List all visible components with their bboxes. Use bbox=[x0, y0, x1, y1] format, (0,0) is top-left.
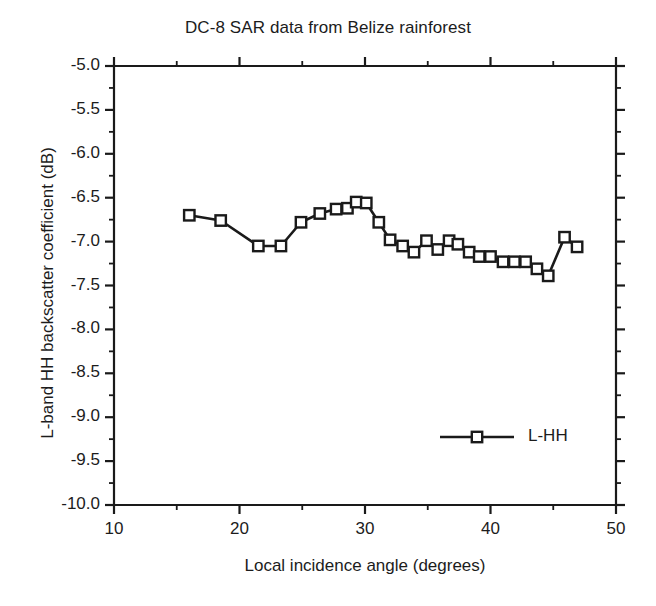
legend-entry-label: L-HH bbox=[528, 426, 568, 446]
data-point-marker bbox=[276, 241, 286, 251]
data-point-marker bbox=[361, 198, 371, 208]
y-tick-label: -7.0 bbox=[30, 231, 100, 251]
x-tick-label: 20 bbox=[215, 519, 265, 539]
chart-figure: DC-8 SAR data from Belize rainforest L-b… bbox=[0, 0, 656, 606]
data-point-marker bbox=[409, 247, 419, 257]
x-tick-label: 40 bbox=[466, 519, 516, 539]
y-tick-label: -10.0 bbox=[30, 494, 100, 514]
data-point-marker bbox=[315, 208, 325, 218]
y-tick-label: -9.0 bbox=[30, 406, 100, 426]
y-tick-label: -5.5 bbox=[30, 99, 100, 119]
x-tick-label: 30 bbox=[340, 519, 390, 539]
legend bbox=[440, 432, 514, 442]
y-tick-label: -8.0 bbox=[30, 318, 100, 338]
data-point-marker bbox=[374, 217, 384, 227]
plot-area bbox=[0, 0, 656, 606]
data-point-marker bbox=[498, 257, 508, 267]
y-tick-label: -8.5 bbox=[30, 362, 100, 382]
y-tick-label: -5.0 bbox=[30, 55, 100, 75]
y-tick-label: -6.5 bbox=[30, 187, 100, 207]
x-tick-label: 10 bbox=[89, 519, 139, 539]
y-tick-label: -6.0 bbox=[30, 143, 100, 163]
data-point-marker bbox=[385, 235, 395, 245]
series-l-hh bbox=[184, 197, 582, 281]
data-point-marker bbox=[474, 251, 484, 261]
chart-title: DC-8 SAR data from Belize rainforest bbox=[0, 18, 656, 38]
data-point-marker bbox=[184, 210, 194, 220]
data-point-marker bbox=[532, 264, 542, 274]
data-point-marker bbox=[421, 236, 431, 246]
data-point-marker bbox=[543, 271, 553, 281]
data-point-marker bbox=[296, 217, 306, 227]
x-axis-title: Local incidence angle (degrees) bbox=[114, 556, 616, 576]
data-point-marker bbox=[397, 241, 407, 251]
data-point-marker bbox=[433, 244, 443, 254]
data-point-marker bbox=[485, 251, 495, 261]
data-point-marker bbox=[253, 241, 263, 251]
data-point-marker bbox=[572, 242, 582, 252]
data-point-marker bbox=[520, 257, 530, 267]
data-point-marker bbox=[215, 215, 225, 225]
data-point-marker bbox=[351, 197, 361, 207]
data-point-marker bbox=[509, 257, 519, 267]
data-point-marker bbox=[331, 204, 341, 214]
data-point-marker bbox=[453, 239, 463, 249]
x-tick-label: 50 bbox=[591, 519, 641, 539]
y-tick-label: -7.5 bbox=[30, 275, 100, 295]
y-tick-label: -9.5 bbox=[30, 450, 100, 470]
data-point-marker bbox=[559, 232, 569, 242]
data-point-marker bbox=[464, 247, 474, 257]
